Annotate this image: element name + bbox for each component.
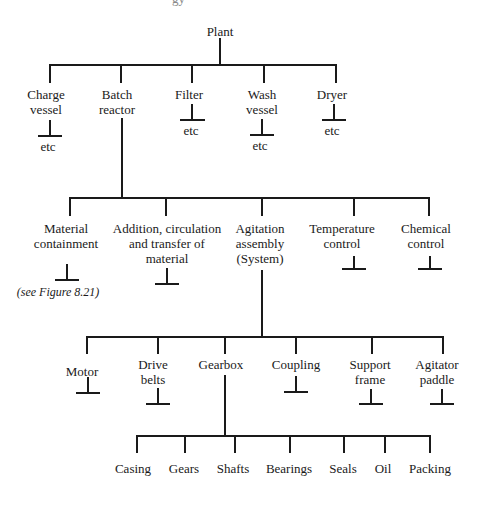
node-addition-circulation-transfer: Addition, circulationand transfer ofmate…: [113, 221, 221, 266]
node-label-line: belts: [141, 372, 166, 387]
node-material-containment: Materialcontainment: [34, 221, 98, 251]
node-gearbox: Gearbox: [199, 357, 244, 372]
node-drive-belts: Drivebelts: [138, 357, 168, 387]
node-batch-reactor: Batchreactor: [99, 87, 135, 117]
node-shafts: Shafts: [217, 461, 250, 476]
node-wash-vessel: Washvessel: [246, 87, 278, 117]
node-label-line: Temperature: [309, 221, 375, 236]
node-agitator-paddle: Agitatorpaddle: [415, 357, 458, 387]
etc-dryer: etc: [324, 123, 339, 138]
node-label-line: paddle: [420, 372, 455, 387]
node-charge-vessel: Chargevessel: [27, 87, 64, 117]
node-coupling: Coupling: [272, 357, 320, 372]
node-label-line: containment: [34, 236, 98, 251]
node-label-line: reactor: [99, 102, 135, 117]
node-label-line: and transfer of: [129, 236, 205, 251]
node-motor: Motor: [66, 364, 99, 379]
etc-charge-vessel: etc: [40, 139, 55, 154]
node-seals: Seals: [329, 461, 356, 476]
node-support-frame: Supportframe: [349, 357, 390, 387]
node-label-line: Addition, circulation: [113, 221, 221, 236]
node-label-line: assembly: [236, 236, 284, 251]
hierarchy-diagram: gy: [0, 0, 480, 505]
node-label-line: Material: [44, 221, 88, 236]
node-label-line: control: [408, 236, 445, 251]
node-temperature-control: Temperaturecontrol: [309, 221, 375, 251]
etc-wash-vessel: etc: [252, 138, 267, 153]
node-label-line: frame: [355, 372, 385, 387]
node-oil: Oil: [375, 461, 392, 476]
node-label-line: Agitation: [235, 221, 284, 236]
node-label-line: vessel: [30, 102, 62, 117]
node-plant: Plant: [207, 24, 234, 39]
figure-reference-note: (see Figure 8.21): [17, 285, 100, 300]
node-label-line: Support: [349, 357, 390, 372]
node-dryer: Dryer: [317, 87, 347, 102]
node-packing: Packing: [409, 461, 451, 476]
node-gears: Gears: [169, 461, 199, 476]
node-label-line: Chemical: [401, 221, 451, 236]
node-label-line: control: [324, 236, 361, 251]
etc-filter: etc: [183, 123, 198, 138]
node-label-line: material: [146, 251, 189, 266]
node-label-line: Wash: [248, 87, 277, 102]
node-bearings: Bearings: [266, 461, 312, 476]
node-label-line: Charge: [27, 87, 64, 102]
node-filter: Filter: [175, 87, 203, 102]
node-agitation-assembly: Agitationassembly(System): [235, 221, 284, 266]
node-chemical-control: Chemicalcontrol: [401, 221, 451, 251]
node-label-line: Batch: [102, 87, 132, 102]
node-label-line: (System): [237, 251, 284, 266]
node-label-line: vessel: [246, 102, 278, 117]
node-label-line: Agitator: [415, 357, 458, 372]
node-label-line: Drive: [138, 357, 168, 372]
node-casing: Casing: [115, 461, 151, 476]
